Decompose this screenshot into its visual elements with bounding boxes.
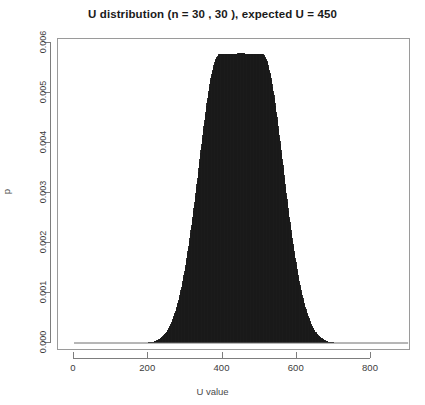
- y-axis-line: [50, 42, 51, 343]
- plot-area: [58, 39, 409, 349]
- y-tick-label: 0.006: [38, 25, 48, 59]
- y-axis-title: p: [1, 189, 12, 194]
- plot-frame: [57, 38, 410, 350]
- x-tick-label: 600: [288, 362, 304, 373]
- y-tick-label: 0.003: [38, 175, 48, 209]
- chart-screenshot: U distribution (n = 30 , 30 ), expected …: [0, 0, 425, 405]
- x-tick-label: 800: [362, 362, 378, 373]
- y-tick-label: 0.001: [38, 275, 48, 309]
- x-tick-mark: [370, 352, 371, 358]
- distribution-impulses: [141, 53, 341, 343]
- y-tick-label: 0.005: [38, 75, 48, 109]
- impulse-lines: [74, 53, 408, 343]
- x-tick-mark: [296, 352, 297, 358]
- y-tick-label: 0.000: [38, 325, 48, 359]
- y-tick-label: 0.004: [38, 125, 48, 159]
- x-tick-label: 0: [70, 362, 75, 373]
- x-tick-label: 200: [139, 362, 155, 373]
- x-tick-mark: [73, 352, 74, 358]
- y-tick-label: 0.002: [38, 225, 48, 259]
- distribution-plot: [58, 39, 409, 349]
- x-axis-title: U value: [0, 386, 425, 397]
- x-axis-line: [73, 358, 370, 359]
- x-tick-mark: [147, 352, 148, 358]
- x-tick-mark: [222, 352, 223, 358]
- chart-title: U distribution (n = 30 , 30 ), expected …: [0, 8, 425, 20]
- x-tick-label: 400: [214, 362, 230, 373]
